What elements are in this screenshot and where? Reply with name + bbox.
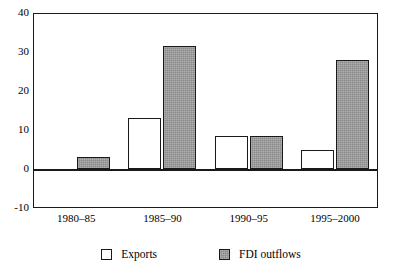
y-tick-label: 10	[0, 124, 29, 135]
y-tick-label: 30	[0, 46, 29, 57]
bar-exports-1995-2000	[301, 150, 334, 170]
bar-fdi-outflows-1985-90	[163, 46, 196, 169]
exports-swatch-icon	[101, 249, 112, 260]
legend-label-fdi-outflows: FDI outflows	[239, 248, 301, 260]
y-tick-label: 0	[0, 163, 29, 174]
bar-exports-1985-90	[128, 118, 161, 169]
plot-area-frame	[33, 13, 378, 208]
fdi-outflows-swatch-icon	[219, 249, 230, 260]
bar-fdi-outflows-1995-2000	[336, 60, 369, 169]
x-tick-label: 1980–85	[33, 212, 119, 225]
legend-label-exports: Exports	[121, 248, 157, 260]
y-tick-label: 20	[0, 85, 29, 96]
y-tick-label: -10	[0, 202, 29, 213]
bar-chart: 403020100-10 1980–851985–901990–951995–2…	[0, 0, 402, 278]
chart-legend: Exports FDI outflows	[0, 248, 402, 260]
legend-item-exports: Exports	[101, 248, 157, 260]
y-tick-label: 40	[0, 7, 29, 18]
x-tick-label: 1995–2000	[292, 212, 378, 225]
x-tick-label: 1985–90	[119, 212, 205, 225]
bar-fdi-outflows-1980-85	[77, 157, 110, 169]
zero-baseline	[33, 169, 378, 171]
bar-fdi-outflows-1990-95	[250, 136, 283, 169]
bar-exports-1990-95	[215, 136, 248, 169]
legend-item-fdi-outflows: FDI outflows	[219, 248, 301, 260]
x-tick-label: 1990–95	[206, 212, 292, 225]
